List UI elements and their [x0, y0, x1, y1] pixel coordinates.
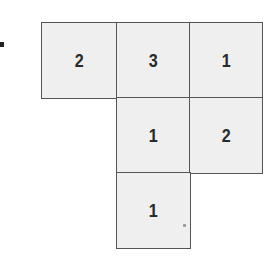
grid-cell-r0-c0: 2 — [41, 22, 118, 99]
grid-cell-r1-c1: 1 — [116, 97, 191, 174]
cell-value: 2 — [75, 50, 84, 72]
grid-cell-r0-c2: 1 — [189, 22, 263, 99]
cell-value: 1 — [149, 200, 158, 222]
cell-value: 1 — [221, 50, 230, 72]
grid-cell-r2-c1: 1 — [116, 172, 191, 249]
grid-cell-r1-c2: 2 — [189, 97, 263, 174]
cell-value: 2 — [221, 125, 230, 147]
cell-value: 3 — [149, 50, 158, 72]
grid-cell-r0-c1: 3 — [116, 22, 191, 99]
cell-value: 1 — [149, 125, 158, 147]
bullet-marker — [0, 42, 4, 47]
stray-mark — [183, 224, 186, 227]
